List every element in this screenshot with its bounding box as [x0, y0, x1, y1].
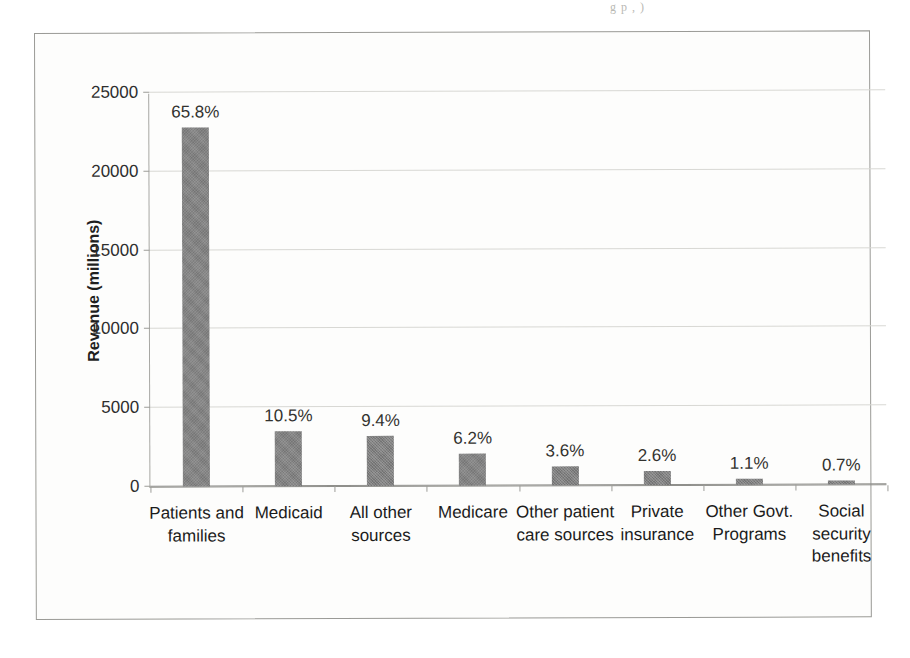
bar-group: 9.4%All other sources: [333, 93, 426, 486]
bar-value-label: 9.4%: [361, 411, 400, 431]
bar[interactable]: [551, 466, 578, 485]
bar-value-label: 6.2%: [453, 428, 492, 448]
y-tick-mark-25000: [143, 92, 149, 93]
plot-area: 050001000015000200002500065.8%Patients a…: [148, 91, 886, 487]
bar-value-label: 1.1%: [730, 454, 769, 474]
bar-group: 65.8%Patients and families: [149, 93, 242, 486]
bar-group: 1.1%Other Govt. Programs: [702, 92, 795, 485]
y-tick-label-5000: 5000: [101, 398, 139, 418]
x-tick-mark: [703, 485, 704, 491]
bar-value-label: 3.6%: [545, 441, 584, 461]
bar[interactable]: [736, 479, 763, 485]
x-tick-mark: [519, 485, 520, 491]
bar[interactable]: [182, 127, 210, 486]
bar-group: 3.6%Other patient care sources: [518, 92, 611, 485]
bar-value-label: 10.5%: [264, 406, 312, 426]
bar-value-label: 65.8%: [171, 102, 219, 122]
chart-frame: Revenue (millions) 050001000015000200002…: [34, 30, 872, 620]
bar-group: 0.7%Social security benefits: [794, 91, 887, 484]
x-tick-mark: [795, 485, 796, 491]
bar-value-label: 0.7%: [822, 456, 861, 476]
x-tick-mark: [150, 487, 151, 493]
x-tick-mark: [335, 486, 336, 492]
y-tick-label-10000: 10000: [92, 319, 139, 339]
y-axis-title: Revenue (millions): [84, 94, 103, 488]
y-tick-label-15000: 15000: [91, 240, 138, 260]
x-tick-mark: [243, 486, 244, 492]
bar-group: 2.6%Private insurance: [610, 92, 703, 485]
y-tick-label-25000: 25000: [91, 83, 138, 103]
bar[interactable]: [275, 431, 302, 486]
bar-group: 10.5%Medicaid: [241, 93, 334, 486]
bar-group: 6.2%Medicare: [426, 92, 519, 485]
page-top-text-fragment: g p , ): [610, 0, 890, 14]
bar[interactable]: [828, 481, 855, 485]
x-axis-category-label: Social security benefits: [787, 500, 895, 568]
bar-value-label: 2.6%: [638, 446, 677, 466]
x-tick-mark: [427, 486, 428, 492]
y-tick-label-0: 0: [130, 477, 140, 497]
y-tick-label-20000: 20000: [91, 161, 138, 181]
bar[interactable]: [644, 471, 671, 485]
bar[interactable]: [459, 453, 486, 485]
x-tick-mark-end: [887, 485, 888, 491]
x-tick-mark: [611, 485, 612, 491]
bar[interactable]: [367, 436, 394, 486]
